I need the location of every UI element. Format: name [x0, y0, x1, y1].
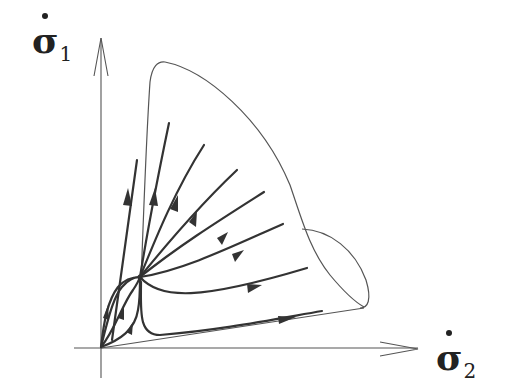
axis-subscript: 2	[464, 359, 477, 383]
axis-subscript: 1	[60, 42, 73, 66]
cone-outline	[141, 62, 364, 307]
arrowhead-icon	[103, 305, 109, 320]
cone-lobe	[302, 229, 369, 308]
vertical-axis-label: σ1	[32, 22, 72, 58]
horizontal-axis-label: σ2	[436, 339, 476, 375]
arrowhead-icon	[118, 305, 124, 320]
arrowhead-icon	[123, 188, 132, 206]
cone-base-line	[101, 308, 364, 348]
arrowhead-icon	[217, 232, 228, 245]
trajectory-3	[140, 145, 204, 277]
axis-symbol: σ	[32, 19, 59, 61]
arrowhead-icon	[232, 250, 244, 262]
horizontal-axis-arrowhead-icon	[380, 342, 418, 356]
arrowhead-icon	[247, 284, 262, 293]
axis-symbol: σ	[436, 336, 463, 378]
node-point	[138, 275, 143, 280]
arrowhead-icon	[278, 316, 296, 324]
trajectory-1	[112, 160, 137, 340]
trajectories	[101, 123, 322, 347]
trajectory-4	[140, 170, 237, 277]
trajectory-arrowheads	[103, 188, 296, 335]
phase-portrait-diagram	[0, 0, 505, 391]
axes	[74, 38, 418, 378]
sigma-symbol: σ	[32, 19, 59, 61]
arrowhead-icon	[149, 188, 158, 206]
sigma-symbol: σ	[436, 336, 463, 378]
trajectory-8	[141, 282, 322, 335]
